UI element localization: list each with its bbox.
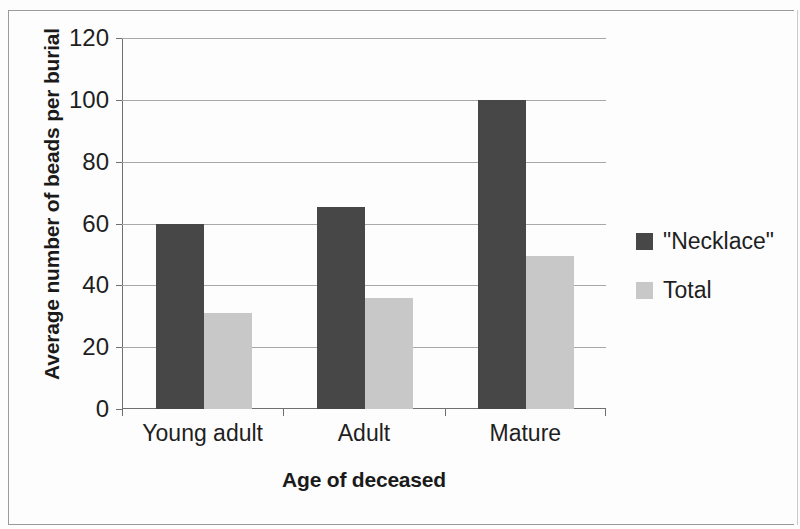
y-axis-tick: [116, 162, 122, 163]
legend-item-label: Total: [663, 277, 712, 304]
bar: [526, 256, 574, 409]
y-axis-tick-label: 80: [82, 148, 109, 176]
plot-area: 020406080100120: [122, 38, 606, 409]
x-axis-tick-labels: Young adultAdultMature: [122, 420, 606, 454]
bar: [156, 224, 204, 410]
y-axis-tick-label: 0: [96, 395, 109, 423]
light-gray-swatch: [636, 282, 653, 299]
bar-chart-figure: Average number of beads per burial 02040…: [0, 0, 800, 529]
bar: [204, 313, 252, 409]
legend-item[interactable]: "Necklace": [636, 228, 774, 255]
y-axis-tick: [116, 285, 122, 286]
dark-gray-swatch: [636, 233, 653, 250]
bar: [478, 100, 526, 409]
x-axis-tick: [283, 409, 284, 416]
x-axis-tick: [605, 409, 606, 416]
y-axis-tick-label: 120: [69, 24, 109, 52]
x-axis-tick: [445, 409, 446, 416]
bar-series-layer: [123, 38, 606, 409]
x-axis-title: Age of deceased: [122, 468, 606, 492]
bar: [317, 207, 365, 410]
x-axis-category-label: Young adult: [142, 420, 263, 447]
y-axis-tick-label: 100: [69, 86, 109, 114]
chart-legend: "Necklace"Total: [636, 228, 774, 326]
y-axis-tick-label: 60: [82, 210, 109, 238]
y-axis-tick-label: 20: [82, 333, 109, 361]
figure-border-right: [797, 10, 798, 525]
y-axis-tick-label: 40: [82, 271, 109, 299]
bar: [365, 298, 413, 409]
y-axis-tick: [116, 38, 122, 39]
x-axis-tick: [122, 409, 123, 416]
legend-item[interactable]: Total: [636, 277, 774, 304]
y-axis-tick: [116, 347, 122, 348]
y-axis-title: Average number of beads per burial: [40, 4, 64, 404]
legend-item-label: "Necklace": [663, 228, 774, 255]
x-axis-category-label: Adult: [338, 420, 390, 447]
x-axis-category-label: Mature: [490, 420, 562, 447]
y-axis-tick: [116, 100, 122, 101]
y-axis-tick: [116, 224, 122, 225]
